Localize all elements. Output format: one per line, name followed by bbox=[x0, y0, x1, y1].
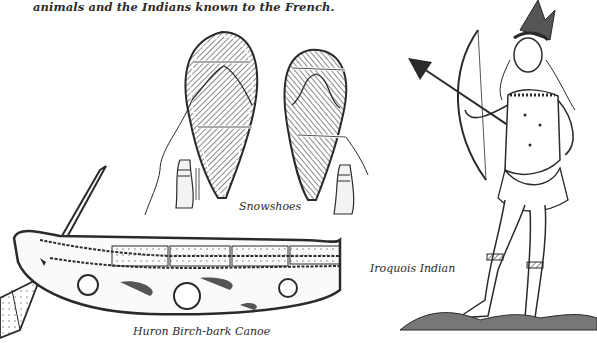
canoe bbox=[14, 231, 340, 314]
snowshoe-left bbox=[145, 32, 257, 215]
caption-canoe: Huron Birch-bark Canoe bbox=[133, 325, 270, 338]
illustration-canvas bbox=[0, 0, 597, 343]
snowshoe-right bbox=[284, 50, 368, 200]
iroquois-figure bbox=[400, 0, 597, 330]
caption-iroquois: Iroquois Indian bbox=[370, 262, 455, 275]
moccasin-left bbox=[176, 160, 199, 208]
moccasin-right bbox=[334, 165, 354, 214]
caption-snowshoes: Snowshoes bbox=[239, 200, 301, 213]
